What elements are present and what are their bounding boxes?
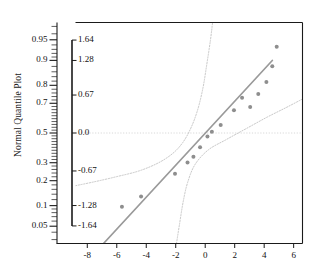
normal-quantile-tick-label: -0.67 [78, 165, 110, 175]
x-tick-label: 2 [225, 250, 245, 260]
data-point [186, 160, 190, 164]
plot-canvas [0, 0, 323, 275]
data-point [270, 64, 274, 68]
probability-tick-label: 0.9 [18, 54, 48, 64]
normal-quantile-plot-figure: Normal Quantile Plot 0.950.90.80.70.50.3… [0, 0, 323, 275]
probability-tick-label: 0.5 [18, 127, 48, 137]
probability-tick-label: 0.8 [18, 79, 48, 89]
data-point [198, 145, 202, 149]
probability-tick-label: 0.05 [18, 220, 48, 230]
probability-tick-label: 0.3 [18, 157, 48, 167]
normal-quantile-tick-label: 1.64 [78, 34, 110, 44]
x-tick-label: 0 [195, 250, 215, 260]
x-tick-label: 4 [254, 250, 274, 260]
data-point [256, 92, 260, 96]
data-point [232, 108, 236, 112]
fitted-line [104, 60, 273, 243]
probability-tick-label: 0.7 [18, 97, 48, 107]
confidence-band-upper [76, 23, 213, 186]
data-point [210, 130, 214, 134]
data-point [275, 45, 279, 49]
x-tick-label: -6 [107, 250, 127, 260]
data-point [240, 96, 244, 100]
data-point [191, 155, 195, 159]
data-point [139, 194, 143, 198]
data-point [173, 172, 177, 176]
x-tick-label: -2 [166, 250, 186, 260]
x-tick-label: 6 [284, 250, 304, 260]
probability-tick-label: 0.95 [18, 34, 48, 44]
confidence-band-lower [176, 99, 302, 244]
normal-quantile-tick-label: -1.64 [78, 220, 110, 230]
x-tick-label: -8 [77, 250, 97, 260]
data-point [205, 134, 209, 138]
normal-quantile-tick-label: 1.28 [78, 54, 110, 64]
normal-quantile-tick-label: 0.0 [78, 127, 110, 137]
probability-tick-label: 0.2 [18, 175, 48, 185]
normal-quantile-tick-label: -1.28 [78, 200, 110, 210]
data-point [120, 205, 124, 209]
data-point [248, 105, 252, 109]
probability-tick-label: 0.1 [18, 200, 48, 210]
x-tick-label: -4 [136, 250, 156, 260]
data-point [219, 123, 223, 127]
normal-quantile-tick-label: 0.67 [78, 89, 110, 99]
data-point [264, 80, 268, 84]
